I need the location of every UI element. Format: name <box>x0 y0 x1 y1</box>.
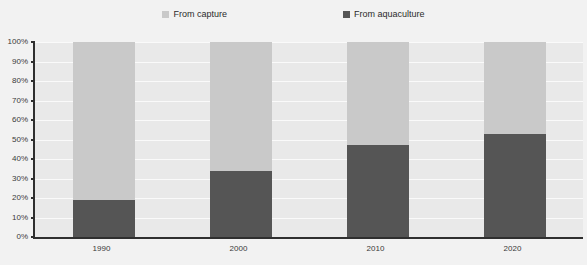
bar-segment-aquaculture[interactable] <box>347 145 409 237</box>
bar-segment-capture[interactable] <box>73 42 135 200</box>
bar-group[interactable] <box>484 42 546 237</box>
x-tick-label: 2010 <box>367 245 385 253</box>
legend-swatch-icon-aquaculture <box>343 11 350 18</box>
legend-label-aquaculture: From aquaculture <box>354 10 425 19</box>
y-axis-tickmark <box>31 236 35 238</box>
y-tick-label: 10% <box>12 214 28 222</box>
chart-legend: From capture From aquaculture <box>0 0 587 28</box>
y-tick-label: 40% <box>12 155 28 163</box>
y-tick-label: 20% <box>12 194 28 202</box>
legend-item-from-aquaculture[interactable]: From aquaculture <box>343 10 425 19</box>
bar-group[interactable] <box>210 42 272 237</box>
plot-wrapper: 0%10%20%30%40%50%60%70%80%90%100% 199020… <box>0 28 587 265</box>
x-tick-label: 2000 <box>230 245 248 253</box>
y-axis: 0%10%20%30%40%50%60%70%80%90%100% <box>0 28 31 237</box>
bar-segment-aquaculture[interactable] <box>484 134 546 237</box>
bar-segment-capture[interactable] <box>210 42 272 171</box>
y-tick-label: 100% <box>8 38 28 46</box>
x-tick-label: 2020 <box>504 245 522 253</box>
bar-segment-aquaculture[interactable] <box>210 171 272 237</box>
x-tick-label: 1990 <box>93 245 111 253</box>
bar-segment-capture[interactable] <box>484 42 546 134</box>
legend-label-capture: From capture <box>173 10 227 19</box>
legend-item-from-capture[interactable]: From capture <box>162 10 227 19</box>
y-tick-label: 0% <box>16 233 28 241</box>
y-tick-label: 30% <box>12 175 28 183</box>
y-tick-label: 70% <box>12 97 28 105</box>
y-tick-label: 50% <box>12 136 28 144</box>
y-tick-label: 90% <box>12 58 28 66</box>
bar-segment-aquaculture[interactable] <box>73 200 135 237</box>
bar-group[interactable] <box>347 42 409 237</box>
y-tick-label: 60% <box>12 116 28 124</box>
stacked-bar-chart: From capture From aquaculture 0%10%20%30… <box>0 0 587 265</box>
legend-swatch-icon-capture <box>162 11 169 18</box>
plot-area <box>33 42 583 239</box>
bar-segment-capture[interactable] <box>347 42 409 145</box>
y-tick-label: 80% <box>12 77 28 85</box>
x-axis: 1990200020102020 <box>33 241 581 261</box>
bar-group[interactable] <box>73 42 135 237</box>
